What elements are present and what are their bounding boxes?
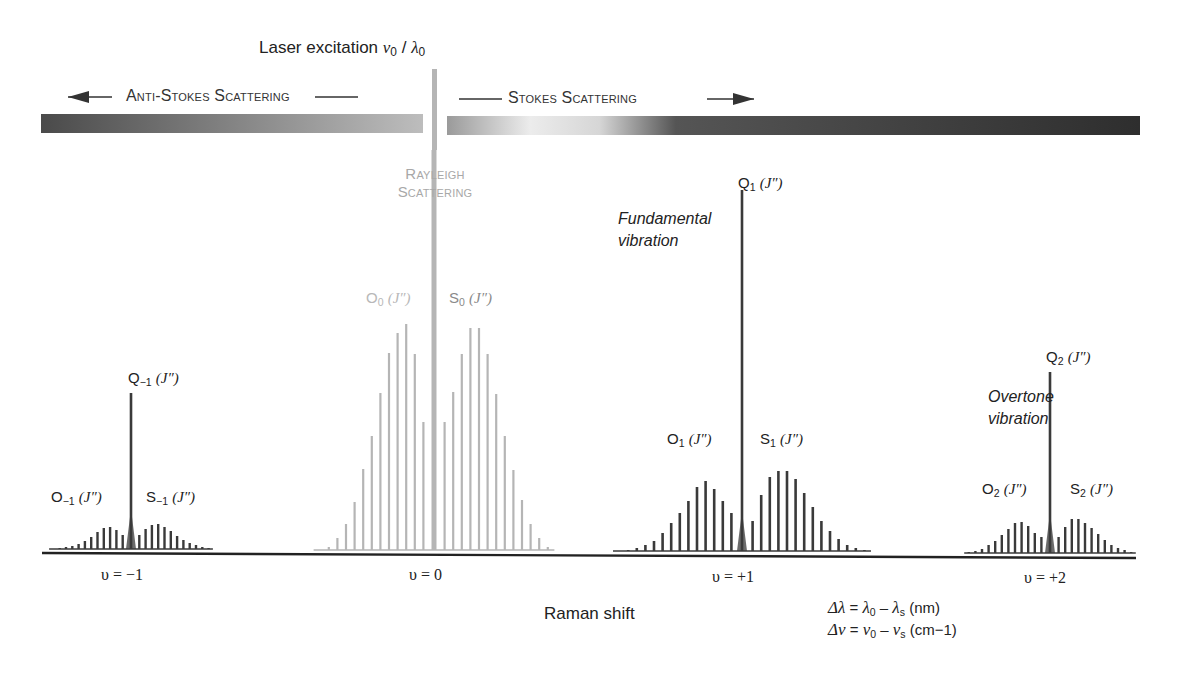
s-branch-line xyxy=(157,524,159,549)
s-branch-line xyxy=(760,495,763,551)
stokes-gradient-bar xyxy=(447,116,1140,135)
o-branch-line xyxy=(713,489,716,551)
s-branch-line xyxy=(1071,519,1073,553)
s-branch-line xyxy=(1090,528,1092,553)
s-branch-line xyxy=(144,529,146,549)
raman-spectrum-diagram: Laser excitation ν0 / λ0 Anti-Stokes Sca… xyxy=(0,0,1184,677)
anti-stokes-label: Anti-Stokes Scattering xyxy=(126,87,290,105)
s-branch-line xyxy=(461,354,463,550)
s-branch-line xyxy=(1117,548,1119,553)
o-branch-line xyxy=(679,513,682,551)
s-branch-line xyxy=(1097,534,1099,553)
o-branch-line xyxy=(90,537,92,549)
s-branch-line xyxy=(163,527,165,549)
o-branch-line xyxy=(627,550,630,551)
s-1-branch-label: S1 (J″) xyxy=(760,430,803,449)
o-branch-line xyxy=(354,502,356,550)
o-branch-line xyxy=(84,541,86,549)
fundamental-vibration-note: Fundamental vibration xyxy=(618,208,711,252)
s-branch-line xyxy=(820,521,823,551)
o-branch-line xyxy=(722,501,725,551)
v-plus2-label: υ = +2 xyxy=(1024,569,1066,587)
s-branch-line xyxy=(794,479,797,551)
s-branch-line xyxy=(1104,540,1106,553)
o-branch-line xyxy=(644,545,647,551)
s-branch-line xyxy=(1057,537,1059,553)
s-branch-line xyxy=(487,354,489,550)
o-2-branch-label: O2 (J″) xyxy=(982,480,1027,499)
spectral-group-1 xyxy=(314,150,555,550)
s-branch-line xyxy=(769,477,772,551)
s-branch-line xyxy=(547,547,549,550)
spectral-lines xyxy=(49,150,1136,553)
o-branch-line xyxy=(1007,529,1009,553)
o-branch-line xyxy=(653,541,656,551)
s-branch-line xyxy=(189,543,191,549)
s-branch-line xyxy=(1130,552,1132,553)
rayleigh-line xyxy=(432,150,437,550)
s-branch-line xyxy=(786,471,789,551)
o-branch-line xyxy=(1001,535,1003,553)
v-minus1-label: υ = −1 xyxy=(101,566,143,584)
s-branch-line xyxy=(195,545,197,549)
o-branch-line xyxy=(987,545,989,553)
s-branch-line xyxy=(138,535,140,549)
s-branch-line xyxy=(751,521,754,551)
o-branch-line xyxy=(661,533,664,551)
s-0-branch-label: S0 (J″) xyxy=(449,289,492,308)
o-branch-line xyxy=(968,552,970,553)
o-branch-line xyxy=(109,527,111,549)
o-branch-line xyxy=(77,544,79,549)
o-branch-line xyxy=(670,523,673,551)
anti-stokes-gradient-bar xyxy=(41,114,423,133)
laser-excitation-title: Laser excitation ν0 / λ0 xyxy=(259,38,425,59)
s-branch-line xyxy=(182,540,184,549)
o-1-branch-label: O1 (J″) xyxy=(667,430,712,449)
raman-shift-axis-title: Raman shift xyxy=(544,604,635,624)
laser-line-top xyxy=(432,69,437,150)
o-branch-line xyxy=(115,530,117,549)
s-branch-line xyxy=(176,536,178,549)
q-minus1-branch-label: Q−1 (J″) xyxy=(128,369,179,388)
s-branch-line xyxy=(837,539,840,551)
s-branch-line xyxy=(495,394,497,550)
v-0-label: υ = 0 xyxy=(409,566,442,584)
o-0-branch-label: O0 (J″) xyxy=(366,289,411,308)
s-branch-line xyxy=(444,422,446,550)
s-branch-line xyxy=(201,547,203,549)
q-branch-line xyxy=(741,190,744,551)
o-branch-line xyxy=(1034,533,1036,553)
o-branch-line xyxy=(103,528,105,549)
o-branch-line xyxy=(414,354,416,550)
o-branch-line xyxy=(704,481,707,551)
o-branch-line xyxy=(65,547,67,549)
s-branch-line xyxy=(846,545,849,551)
o-minus1-branch-label: O−1 (J″) xyxy=(51,488,102,507)
o-branch-line xyxy=(96,532,98,549)
o-branch-line xyxy=(371,436,373,550)
s-branch-line xyxy=(855,548,858,551)
s-branch-line xyxy=(863,550,866,551)
o-branch-line xyxy=(636,548,639,551)
o-branch-line xyxy=(696,487,699,551)
s-branch-line xyxy=(1064,527,1066,553)
o-branch-line xyxy=(59,548,61,549)
s-branch-line xyxy=(207,548,209,549)
s-branch-line xyxy=(1077,519,1079,553)
s-branch-line xyxy=(1123,550,1125,553)
o-branch-line xyxy=(362,469,364,550)
o-branch-line xyxy=(345,524,347,550)
s-2-branch-label: S2 (J″) xyxy=(1070,480,1113,499)
s-branch-line xyxy=(829,531,832,551)
o-branch-line xyxy=(388,353,390,550)
o-branch-line xyxy=(122,535,124,549)
o-branch-line xyxy=(336,538,338,550)
s-branch-line xyxy=(151,525,153,549)
o-branch-line xyxy=(1014,523,1016,553)
delta-nu-formula: Δν = ν0 – νs (cm−1) xyxy=(828,619,957,645)
s-branch-line xyxy=(170,531,172,549)
o-branch-line xyxy=(405,324,407,550)
o-branch-line xyxy=(397,333,399,550)
s-branch-line xyxy=(1084,523,1086,553)
s-branch-line xyxy=(512,470,514,550)
